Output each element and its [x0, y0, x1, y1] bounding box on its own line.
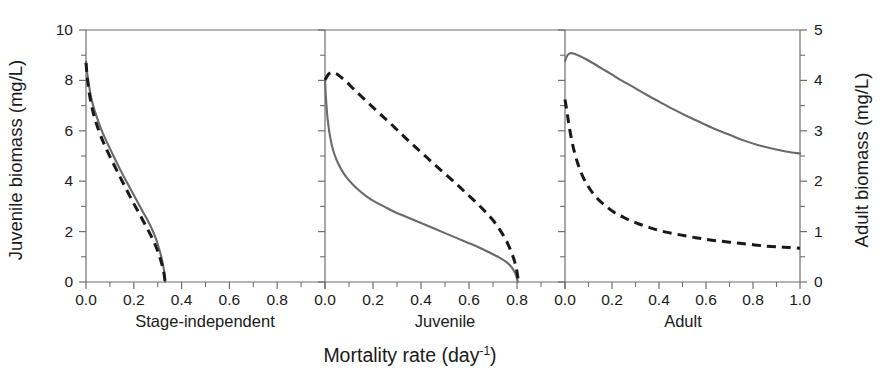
panel0-solid-curve	[86, 62, 165, 283]
panel1-dashed-curve	[325, 72, 518, 282]
y-right-tick-label-1: 1	[814, 223, 823, 240]
left-axis-title-group: Juvenile biomass (mg/L)	[5, 60, 26, 261]
y-tick-label-6: 6	[64, 122, 73, 139]
y-tick-label-10: 10	[56, 21, 74, 38]
x-tick-label-5: 1.0	[789, 291, 811, 308]
y-tick-label-8: 8	[64, 71, 73, 88]
x-tick-label-0: 0.0	[75, 291, 97, 308]
panel2-y-minor-ticks-left	[560, 55, 565, 257]
panel-juvenile: 0.0 0.2 0.4 0.6 0.8 Juvenile	[314, 30, 565, 330]
panel2-solid-curve	[565, 53, 800, 153]
y-right-tick-label-5: 5	[814, 21, 823, 38]
y-right-tick-label-0: 0	[814, 273, 823, 290]
x-tick-label-3: 0.6	[458, 291, 480, 308]
x-tick-label-4: 0.8	[266, 291, 288, 308]
panel-label-juvenile: Juvenile	[415, 312, 476, 330]
panel2-x-minor-ticks	[589, 282, 777, 287]
x-tick-label-1: 0.2	[362, 291, 384, 308]
multi-panel-line-chart: Juvenile biomass (mg/L) Adult biomass (m…	[0, 0, 888, 382]
y-right-tick-label-4: 4	[814, 71, 823, 88]
x-tick-label-0: 0.0	[314, 291, 336, 308]
x-tick-label-0: 0.0	[554, 291, 576, 308]
x-axis-title: Mortality rate (day-1)	[323, 344, 496, 366]
panel0-dashed-curve	[86, 63, 165, 282]
panel-label-adult: Adult	[664, 312, 702, 330]
x-axis-title-group: Mortality rate (day-1)	[323, 344, 496, 366]
panel1-solid-curve	[325, 79, 518, 282]
panel0-x-minor-ticks	[110, 282, 301, 287]
x-tick-label-2: 0.4	[410, 291, 432, 308]
panel2-dashed-curve	[565, 100, 800, 249]
panel-adult: 0 1 2 3 4 5	[554, 21, 823, 330]
x-axis-title-base: Mortality rate (day	[323, 344, 479, 366]
panel-stage-independent: 0 2 4 6 8 10	[56, 21, 325, 330]
right-axis-title: Adult biomass (mg/L)	[851, 73, 872, 248]
x-tick-label-3: 0.6	[219, 291, 241, 308]
x-tick-label-1: 0.2	[601, 291, 623, 308]
y-right-tick-label-3: 3	[814, 122, 823, 139]
panel1-x-tick-labels: 0.0 0.2 0.4 0.6 0.8	[314, 291, 528, 308]
panel0-x-tick-labels: 0.0 0.2 0.4 0.6 0.8	[75, 291, 288, 308]
x-tick-label-1: 0.2	[123, 291, 145, 308]
y-tick-label-2: 2	[64, 223, 73, 240]
x-axis-title-tail: )	[490, 344, 497, 366]
x-tick-label-4: 0.8	[506, 291, 528, 308]
x-tick-label-2: 0.4	[171, 291, 193, 308]
right-axis-title-group: Adult biomass (mg/L)	[851, 73, 872, 248]
panel-label-stage-independent: Stage-independent	[135, 312, 275, 330]
panel2-y-minor-ticks-right	[800, 55, 805, 257]
x-axis-title-superscript: -1	[479, 344, 490, 358]
x-tick-label-2: 0.4	[648, 291, 670, 308]
x-tick-label-3: 0.6	[695, 291, 717, 308]
y-tick-label-4: 4	[64, 172, 73, 189]
y-tick-label-0: 0	[64, 273, 73, 290]
y-right-tick-label-2: 2	[814, 172, 823, 189]
panel2-x-tick-labels: 0.0 0.2 0.4 0.6 0.8 1.0	[554, 291, 811, 308]
left-axis-title: Juvenile biomass (mg/L)	[5, 60, 26, 261]
figure-container: Juvenile biomass (mg/L) Adult biomass (m…	[0, 0, 888, 382]
panel2-y-tick-labels-right: 0 1 2 3 4 5	[814, 21, 823, 290]
panel0-y-tick-labels: 0 2 4 6 8 10	[56, 21, 74, 290]
panel0-y-minor-ticks	[81, 55, 86, 257]
x-tick-label-4: 0.8	[742, 291, 764, 308]
panel1-x-minor-ticks	[349, 282, 541, 287]
